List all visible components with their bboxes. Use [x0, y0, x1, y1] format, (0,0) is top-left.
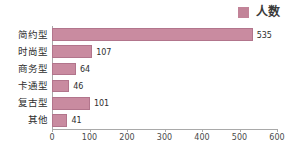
bar-简约型[interactable]: [52, 28, 253, 41]
x-axis-tick-label: 600: [269, 133, 284, 142]
bar-row: 535: [52, 28, 277, 41]
category-label-其他: 其他: [28, 116, 48, 126]
x-axis-tick-label: 100: [82, 133, 97, 142]
x-axis-tick-label: 300: [157, 133, 172, 142]
bar-value-label: 101: [94, 99, 109, 108]
x-axis-tick: [277, 129, 278, 132]
chart-legend: 人数: [238, 4, 280, 20]
bar-复古型[interactable]: [52, 97, 90, 110]
x-axis-tick: [165, 129, 166, 132]
bar-商务型[interactable]: [52, 63, 76, 76]
x-axis-tick-label: 0: [49, 133, 54, 142]
category-label-卡通型: 卡通型: [18, 81, 48, 91]
bar-row: 46: [52, 80, 277, 93]
legend-color-swatch-icon: [238, 7, 249, 18]
plot-area: 0100200300400500600535107644610141: [52, 26, 277, 129]
bar-其他[interactable]: [52, 114, 67, 127]
bar-row: 107: [52, 45, 277, 58]
bar-value-label: 41: [71, 116, 81, 125]
bar-row: 41: [52, 114, 277, 127]
bar-value-label: 46: [73, 82, 83, 91]
category-label-商务型: 商务型: [18, 64, 48, 74]
bar-chart: 人数 简约型时尚型商务型卡通型复古型其他 0100200300400500600…: [0, 0, 289, 146]
category-label-时尚型: 时尚型: [18, 47, 48, 57]
category-label-简约型: 简约型: [18, 30, 48, 40]
x-axis-tick-label: 400: [194, 133, 209, 142]
x-axis-tick-label: 200: [119, 133, 134, 142]
bar-value-label: 64: [80, 64, 90, 73]
bar-value-label: 535: [257, 30, 272, 39]
x-axis-tick: [240, 129, 241, 132]
bar-时尚型[interactable]: [52, 45, 92, 58]
bar-row: 64: [52, 63, 277, 76]
bar-row: 101: [52, 97, 277, 110]
category-label-复古型: 复古型: [18, 99, 48, 109]
x-axis-tick: [90, 129, 91, 132]
bar-value-label: 107: [96, 47, 111, 56]
x-axis-tick: [202, 129, 203, 132]
x-axis-tick: [127, 129, 128, 132]
bar-卡通型[interactable]: [52, 80, 69, 93]
legend-label: 人数: [256, 6, 280, 18]
x-axis-tick: [52, 129, 53, 132]
x-axis-tick-label: 500: [232, 133, 247, 142]
